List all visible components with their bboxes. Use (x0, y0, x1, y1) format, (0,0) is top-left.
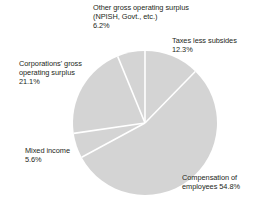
slice-label-line: Corporations' gross (19, 59, 82, 68)
pie-chart: Other gross operating surplus (NPISH, Go… (0, 0, 272, 215)
slice-label-line: Taxes less subsides (172, 36, 237, 45)
slice-label-taxes-less-subsides: Taxes less subsides 12.3% (172, 36, 237, 54)
slice-label-compensation-of-employees: Compensation of employees 54.8% (182, 173, 240, 191)
slice-label-value: 21.1% (19, 77, 82, 86)
slice-label-corporations-gross-operating-surplus: Corporations' gross operating surplus 21… (19, 59, 82, 87)
slice-label-value: 6.2% (93, 21, 189, 30)
slice-label-value: 12.3% (172, 45, 237, 54)
slice-label-value: employees 54.8% (182, 182, 240, 191)
slice-label-line: Mixed income (25, 146, 70, 155)
slice-label-line: (NPISH, Govt., etc.) (93, 12, 189, 21)
slice-label-mixed-income: Mixed income 5.6% (25, 146, 70, 164)
slice-label-other-gross-operating-surplus: Other gross operating surplus (NPISH, Go… (93, 3, 189, 31)
slice-label-line: Compensation of (182, 173, 240, 182)
slice-label-value: 5.6% (25, 155, 70, 164)
slice-label-line: Other gross operating surplus (93, 3, 189, 12)
slice-label-line: operating surplus (19, 68, 82, 77)
